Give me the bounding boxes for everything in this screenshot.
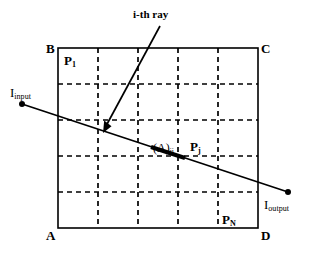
corner-label-d: D xyxy=(261,229,270,242)
ray-input-point xyxy=(19,101,25,107)
vertical-gridlines xyxy=(98,48,218,228)
pixel-label-current: Pj xyxy=(190,140,201,153)
output-intensity-label: Ioutput xyxy=(264,198,289,211)
region-boundary-square xyxy=(58,48,258,228)
pixel-label-last-subscript: N xyxy=(230,219,236,228)
intersection-length-subscript: ij xyxy=(170,147,174,156)
input-intensity-label: Iinput xyxy=(10,86,31,99)
pixel-label-last-base: P xyxy=(222,212,230,227)
intersection-length-label: (A)ij xyxy=(153,142,174,154)
input-intensity-subscript: input xyxy=(14,92,31,101)
pixel-label-first: P1 xyxy=(64,54,76,67)
output-intensity-subscript: output xyxy=(268,204,289,213)
corner-label-c: C xyxy=(261,42,270,55)
intersection-length-base: (A) xyxy=(153,141,170,155)
pixel-label-first-base: P xyxy=(64,53,72,68)
pixel-label-current-base: P xyxy=(190,139,198,154)
ray-grid-diagram: B C A D P1 PN (A)ij Pj i-th ray Iinput I… xyxy=(0,0,315,254)
pixel-label-first-subscript: 1 xyxy=(72,60,76,69)
corner-label-b: B xyxy=(46,42,55,55)
diagram-canvas xyxy=(0,0,315,254)
ray-output-point xyxy=(285,189,291,195)
pixel-label-last: PN xyxy=(222,213,236,226)
callout-arrow-icon xyxy=(103,26,160,133)
pixel-label-current-subscript: j xyxy=(198,146,201,155)
corner-label-a: A xyxy=(46,229,55,242)
horizontal-gridlines xyxy=(58,84,258,192)
ray-callout-label: i-th ray xyxy=(133,9,168,20)
